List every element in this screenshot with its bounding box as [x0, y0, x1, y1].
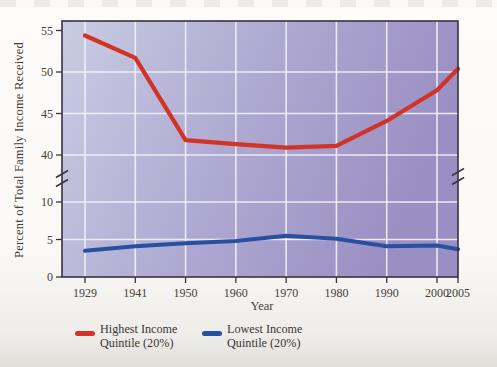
x-tick-label: 1941	[123, 286, 147, 300]
legend-label-highest-quintile: Highest Income Quintile (20%)	[100, 322, 210, 350]
y-tick-label: 50	[41, 65, 53, 79]
x-tick-label: 1970	[274, 286, 298, 300]
x-tick-label: 1960	[224, 286, 248, 300]
y-tick-label: 0	[47, 270, 53, 284]
x-tick-label: 1950	[174, 286, 198, 300]
y-tick-label: 40	[41, 148, 53, 162]
legend-label-line: Quintile (20%)	[100, 336, 210, 350]
legend-label-lowest-quintile: Lowest Income Quintile (20%)	[227, 322, 337, 350]
x-tick-label: 1929	[73, 286, 97, 300]
y-tick-label: 55	[41, 24, 53, 38]
legend-label-line: Quintile (20%)	[227, 336, 337, 350]
y-axis-title: Percent of Total Family Income Received	[12, 42, 27, 258]
y-tick-label: 45	[41, 107, 53, 121]
income-distribution-chart: 5550454010501929194119501960197019801990…	[0, 0, 497, 367]
legend: Highest Income Quintile (20%) Lowest Inc…	[0, 322, 497, 358]
x-tick-label: 1980	[324, 286, 348, 300]
lowest-quintile-swatch	[202, 331, 222, 336]
y-tick-label: 5	[47, 233, 53, 247]
x-tick-label: 1990	[375, 286, 399, 300]
legend-label-line: Lowest Income	[227, 322, 337, 336]
x-tick-label: 2005	[446, 286, 470, 300]
scanned-figure-page: 5550454010501929194119501960197019801990…	[0, 0, 497, 367]
plot-canvas: 5550454010501929194119501960197019801990…	[0, 0, 497, 320]
y-tick-label: 10	[41, 195, 53, 209]
highest-quintile-swatch	[75, 331, 95, 336]
x-axis-title: Year	[250, 299, 273, 314]
legend-label-line: Highest Income	[100, 322, 210, 336]
